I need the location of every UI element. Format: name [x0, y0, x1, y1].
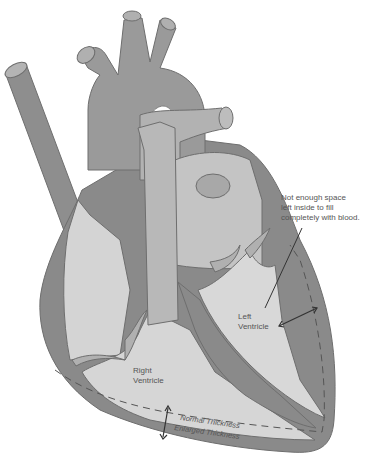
left-ventricle-label-line-1: Left	[238, 312, 278, 322]
note-label: Not enough space left inside to fill com…	[281, 193, 366, 223]
right-ventricle-label-line-2: Ventricle	[133, 376, 173, 386]
heart-diagram: Not enough space left inside to fill com…	[0, 0, 366, 460]
left-ventricle-label: Left Ventricle	[238, 312, 278, 332]
note-line-2: left inside to fill	[281, 203, 366, 213]
heart-illustration	[0, 0, 366, 460]
aorta	[74, 11, 205, 170]
left-ventricle-label-line-2: Ventricle	[238, 322, 278, 332]
note-line-3: completely with blood.	[281, 213, 366, 223]
pulmonary-vein-opening	[196, 174, 230, 198]
right-ventricle-label: Right Ventricle	[133, 366, 173, 386]
note-line-1: Not enough space	[281, 193, 366, 203]
right-ventricle-label-line-1: Right	[133, 366, 173, 376]
